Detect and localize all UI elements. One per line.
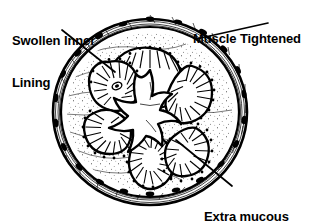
label-swollen-inner-lining: Swollen Inner Lining [12, 6, 95, 118]
label-extra-mucous: Extra mucous Blocking the Airway [204, 182, 302, 222]
figure-asthmatic-airway: Swollen Inner Lining Muscle Tightened Ex… [0, 0, 330, 222]
label-extra-mucous-line1: Extra mucous [204, 210, 302, 222]
label-swollen-inner-lining-line1: Swollen Inner [12, 34, 95, 48]
label-muscle-tightened-line1: Muscle Tightened [193, 32, 301, 46]
label-muscle-tightened: Muscle Tightened [193, 4, 301, 74]
label-swollen-inner-lining-line2: Lining [12, 76, 95, 90]
